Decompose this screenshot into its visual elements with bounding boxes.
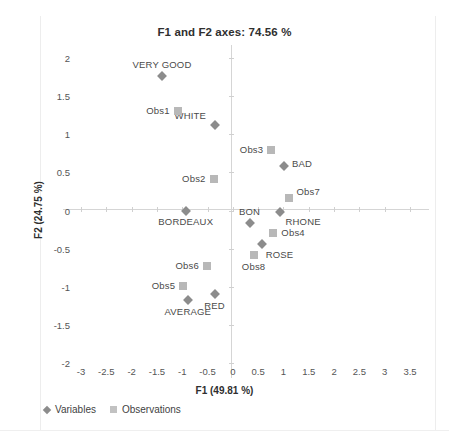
x-tick-label: -0.5 (199, 366, 215, 377)
data-label-obs4: Obs4 (281, 227, 305, 238)
y-tick-label: -1.5 (40, 319, 70, 330)
x-tick (334, 207, 335, 212)
y-tick-label: 2 (40, 53, 70, 64)
x-axis-title: F1 (49.81 %) (0, 385, 449, 396)
legend-item-variables[interactable]: Variables (44, 404, 96, 415)
x-tick-label: -3 (77, 366, 85, 377)
x-tick-label: 2 (331, 366, 336, 377)
x-tick-label: -1 (178, 366, 186, 377)
data-label-very-good: VERY GOOD (132, 59, 191, 70)
x-tick (385, 207, 386, 212)
x-tick-label: -2 (127, 366, 135, 377)
data-label-rhone: RHONE (285, 216, 320, 227)
x-tick-label: 1.5 (302, 366, 315, 377)
data-point-rose[interactable] (257, 239, 267, 249)
data-label-obs6: Obs6 (176, 260, 200, 271)
data-point-obs5[interactable] (179, 282, 187, 290)
data-label-average: AVERAGE (164, 306, 211, 317)
data-label-bad: BAD (292, 158, 312, 169)
data-point-red[interactable] (210, 289, 220, 299)
data-label-rose: ROSE (266, 249, 294, 260)
data-label-obs7: Obs7 (297, 186, 321, 197)
x-tick (208, 207, 209, 212)
data-point-obs8[interactable] (250, 251, 258, 259)
x-tick-label: 3.5 (403, 366, 416, 377)
x-tick (157, 207, 158, 212)
data-point-obs2[interactable] (210, 175, 218, 183)
y-tick (229, 363, 234, 364)
chart-screenshot: F1 and F2 axes: 74.56 % -3-2.5-2-1.5-1-0… (0, 0, 449, 445)
y-tick-label: 1 (40, 129, 70, 140)
square-marker-icon (110, 406, 117, 413)
y-axis-line (231, 45, 232, 378)
footer-divider (0, 430, 449, 431)
data-label-bordeaux: BORDEAUX (158, 216, 213, 227)
x-tick (106, 207, 107, 212)
y-tick-label: -0.5 (40, 243, 70, 254)
x-tick-label: -1.5 (149, 366, 165, 377)
data-point-obs1[interactable] (174, 107, 182, 115)
x-tick-label: -2.5 (98, 366, 114, 377)
y-tick-label: 0 (40, 205, 70, 216)
y-tick (229, 134, 234, 135)
diamond-marker-icon (43, 405, 51, 413)
data-point-average[interactable] (183, 296, 193, 306)
data-label-obs8: Obs8 (242, 261, 266, 272)
data-point-obs6[interactable] (203, 262, 211, 270)
data-point-white[interactable] (210, 120, 220, 130)
legend-label-observations: Observations (122, 404, 181, 415)
data-point-obs3[interactable] (267, 146, 275, 154)
y-tick (229, 211, 234, 212)
x-tick (132, 207, 133, 212)
data-label-bon: BON (239, 206, 260, 217)
data-point-bad[interactable] (279, 161, 289, 171)
data-point-obs4[interactable] (269, 229, 277, 237)
scatter-plot-area: -3-2.5-2-1.5-1-0.500.511.522.533.521.510… (0, 0, 449, 445)
y-axis-title: F2 (24.75 %) (33, 150, 44, 270)
x-tick-label: 2.5 (353, 366, 366, 377)
legend-item-observations[interactable]: Observations (110, 404, 181, 415)
x-tick (309, 207, 310, 212)
x-tick-label: 3 (382, 366, 387, 377)
y-tick-label: -2 (40, 358, 70, 369)
legend-label-variables: Variables (55, 404, 96, 415)
y-tick-label: 1.5 (40, 91, 70, 102)
y-tick (229, 96, 234, 97)
data-label-obs3: Obs3 (240, 144, 264, 155)
y-tick (229, 249, 234, 250)
y-tick-label: 0.5 (40, 167, 70, 178)
x-tick (81, 207, 82, 212)
y-tick (229, 172, 234, 173)
data-label-obs1: Obs1 (146, 105, 170, 116)
x-tick-label: 1 (281, 366, 286, 377)
x-tick (359, 207, 360, 212)
x-tick-label: 0 (230, 366, 235, 377)
data-label-obs5: Obs5 (152, 280, 176, 291)
data-point-bon[interactable] (245, 219, 255, 229)
y-tick (229, 325, 234, 326)
x-tick-label: 0.5 (252, 366, 265, 377)
y-tick (229, 287, 234, 288)
y-tick (229, 58, 234, 59)
x-tick (410, 207, 411, 212)
data-label-obs2: Obs2 (182, 173, 206, 184)
chart-legend: Variables Observations (44, 404, 181, 415)
data-point-obs7[interactable] (285, 194, 293, 202)
data-point-very-good[interactable] (157, 71, 167, 81)
y-tick-label: -1 (40, 281, 70, 292)
